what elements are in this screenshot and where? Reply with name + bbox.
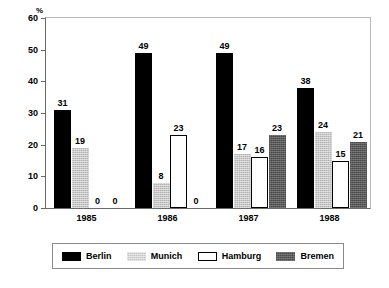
bar-munich-1986[interactable]: [153, 183, 170, 208]
bar-value-label: 0: [95, 196, 100, 206]
y-axis-tick-label: 0: [33, 203, 38, 214]
bar-value-label: 49: [219, 41, 229, 51]
bar-bremen-1988[interactable]: [350, 142, 367, 209]
bar-value-label: 31: [57, 98, 67, 108]
y-axis-tick-label: 50: [28, 45, 38, 56]
legend-swatch-icon-bremen: [276, 252, 295, 261]
bars-layer: 3119004982304917162338241521: [46, 18, 370, 208]
x-axis: 1985198619871988: [46, 212, 370, 228]
y-axis-tick-label: 40: [28, 76, 38, 87]
bar-munich-1985[interactable]: [72, 148, 89, 208]
y-axis-tick-label: 60: [28, 13, 38, 24]
bar-group: 38241521: [289, 18, 370, 208]
y-axis-tick-mark: [41, 81, 45, 82]
bar-chart: % 6050403020100 311900498230491716233824…: [0, 0, 389, 288]
legend-item-bremen[interactable]: Bremen: [276, 251, 334, 262]
legend-item-munich[interactable]: Munich: [127, 251, 183, 262]
bar-berlin-1985[interactable]: [54, 110, 71, 208]
legend-swatch-icon-berlin: [62, 252, 81, 261]
legend-label: Bremen: [300, 251, 334, 262]
bar-berlin-1987[interactable]: [216, 53, 233, 208]
legend-label: Munich: [151, 251, 183, 262]
legend-label: Berlin: [86, 251, 112, 262]
legend-item-hamburg[interactable]: Hamburg: [198, 251, 262, 262]
legend-swatch-icon-hamburg: [198, 252, 217, 261]
bar-bremen-1987[interactable]: [269, 135, 286, 208]
bar-value-label: 49: [138, 41, 148, 51]
legend-item-berlin[interactable]: Berlin: [62, 251, 112, 262]
legend-swatch-icon-munich: [127, 252, 146, 261]
bar-value-label: 0: [112, 196, 117, 206]
bar-value-label: 19: [75, 136, 85, 146]
bar-munich-1988[interactable]: [315, 132, 332, 208]
y-axis-tick-mark: [41, 50, 45, 51]
bar-group: 311900: [46, 18, 127, 208]
bar-berlin-1986[interactable]: [135, 53, 152, 208]
bar-value-label: 24: [318, 120, 328, 130]
y-axis-tick-label: 10: [28, 171, 38, 182]
y-axis-tick-mark: [41, 113, 45, 114]
bar-value-label: 15: [335, 149, 345, 159]
bar-value-label: 0: [193, 196, 198, 206]
bar-value-label: 38: [300, 76, 310, 86]
bar-value-label: 17: [237, 142, 247, 152]
chart-legend: BerlinMunichHamburgBremen: [52, 243, 344, 269]
y-axis-tick-label: 20: [28, 140, 38, 151]
x-axis-label-1985: 1985: [76, 212, 96, 224]
y-axis-tick-mark: [41, 176, 45, 177]
y-axis-tick-mark: [41, 208, 45, 209]
y-axis-tick-label: 30: [28, 108, 38, 119]
x-axis-label-1987: 1987: [238, 212, 258, 224]
bar-value-label: 23: [173, 123, 183, 133]
bar-hamburg-1987[interactable]: [251, 157, 268, 208]
bar-group: 498230: [127, 18, 208, 208]
y-axis: 6050403020100: [0, 17, 45, 209]
bar-value-label: 8: [158, 171, 163, 181]
x-axis-label-1988: 1988: [319, 212, 339, 224]
bar-berlin-1988[interactable]: [297, 88, 314, 208]
legend-label: Hamburg: [222, 251, 262, 262]
bar-value-label: 23: [272, 123, 282, 133]
bar-value-label: 16: [254, 145, 264, 155]
bar-value-label: 21: [353, 130, 363, 140]
x-axis-label-1986: 1986: [157, 212, 177, 224]
bar-hamburg-1988[interactable]: [332, 161, 349, 209]
bar-group: 49171623: [208, 18, 289, 208]
bar-hamburg-1986[interactable]: [170, 135, 187, 208]
y-axis-tick-mark: [41, 145, 45, 146]
y-axis-tick-mark: [41, 18, 45, 19]
bar-munich-1987[interactable]: [234, 154, 251, 208]
